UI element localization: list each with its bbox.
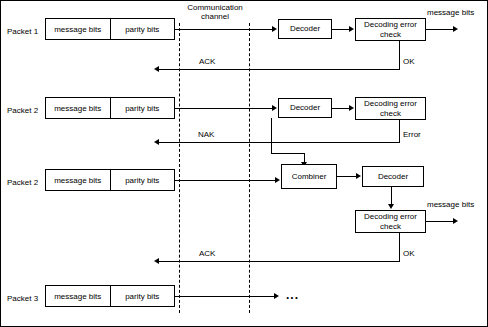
line-packet1-to-decoder1	[175, 29, 273, 30]
message-bits-output-2-label: message bits	[427, 200, 474, 209]
packet-1-label: Packet 1	[7, 27, 38, 36]
line-errcheck3-down	[399, 233, 400, 261]
line-decoder2-to-errcheck2	[332, 108, 350, 109]
arrow-decoder1-to-errcheck1	[349, 26, 354, 32]
packet-3-label: Packet 3	[7, 294, 38, 303]
errcheck3-line1: Decoding error	[364, 212, 417, 221]
line-errcheck2-down	[399, 120, 400, 142]
arrow-errcheck1-output	[453, 26, 458, 32]
ok-1-label: OK	[403, 57, 415, 66]
arrow-nak	[154, 139, 159, 145]
line-errcheck1-down	[399, 41, 400, 69]
line-errcheck1-to-output1	[426, 29, 454, 30]
errcheck2-line1: Decoding error	[364, 99, 417, 108]
packet-1-message-bits: message bits	[46, 19, 111, 39]
line-packet3-out	[175, 296, 275, 297]
line-packet2r-to-combiner	[175, 180, 276, 181]
decoder-2-box: Decoder	[278, 98, 332, 118]
packet-2-box: message bits parity bits	[45, 97, 175, 119]
line-packet2-to-decoder2	[175, 108, 273, 109]
packet-1-parity-bits: parity bits	[111, 19, 175, 39]
channel-boundary-right	[249, 23, 250, 313]
decoding-error-check-2-box: Decoding error check	[355, 97, 426, 120]
ack-2-label: ACK	[199, 249, 215, 258]
packet-1-box: message bits parity bits	[45, 18, 175, 40]
ellipsis-label: ...	[286, 288, 299, 302]
decoder-3-box: Decoder	[362, 166, 424, 187]
figure-canvas: Communication channel Packet 1 message b…	[0, 0, 488, 327]
line-errcheck3-to-output2	[426, 221, 454, 222]
packet-2-retransmit-label: Packet 2	[7, 178, 38, 187]
arrow-packet3-out	[274, 293, 279, 299]
errcheck3-line2: check	[380, 222, 401, 231]
ok-2-label: OK	[403, 249, 415, 258]
decoder-1-box: Decoder	[278, 19, 332, 39]
arrow-packet2r-to-combiner	[275, 177, 280, 183]
arrow-errcheck3-output	[453, 218, 458, 224]
arrow-packet1-to-decoder1	[272, 26, 277, 32]
line-nak-horizontal	[159, 142, 400, 143]
packet-3-message-bits: message bits	[46, 286, 111, 306]
packet-3-parity-bits: parity bits	[111, 286, 175, 306]
arrow-decoder3-to-errcheck3	[388, 204, 394, 209]
decoding-error-check-1-box: Decoding error check	[355, 18, 426, 41]
arrow-packet2-to-decoder2	[272, 105, 277, 111]
packet-3-box: message bits parity bits	[45, 285, 175, 307]
channel-label-line2: channel	[169, 12, 261, 21]
nak-label: NAK	[198, 130, 214, 139]
packet-2-parity-bits: parity bits	[111, 98, 175, 118]
arrow-decoder2-to-errcheck2	[349, 105, 354, 111]
packet-2-retransmit-parity-bits: parity bits	[111, 170, 175, 190]
line-decoder2-buffer-right	[271, 153, 305, 154]
arrow-ack1	[154, 66, 159, 72]
errcheck1-line2: check	[380, 30, 401, 39]
error-label: Error	[403, 130, 421, 139]
packet-2-retransmit-box: message bits parity bits	[45, 169, 175, 191]
arrow-combiner-to-decoder3	[356, 173, 361, 179]
channel-label-line1: Communication	[169, 3, 261, 12]
errcheck2-line2: check	[380, 109, 401, 118]
message-bits-output-1-label: message bits	[427, 8, 474, 17]
packet-2-message-bits: message bits	[46, 98, 111, 118]
decoding-error-check-3-box: Decoding error check	[355, 210, 426, 233]
channel-boundary-left	[179, 23, 180, 313]
packet-2-retransmit-message-bits: message bits	[46, 170, 111, 190]
line-decoder2-buffer-down	[271, 118, 272, 153]
line-ack1-horizontal	[159, 69, 400, 70]
ack-1-label: ACK	[199, 57, 215, 66]
packet-2-label: Packet 2	[7, 106, 38, 115]
line-combiner-to-decoder3	[337, 176, 357, 177]
errcheck1-line1: Decoding error	[364, 20, 417, 29]
combiner-box: Combiner	[281, 164, 337, 189]
line-decoder1-to-errcheck1	[332, 29, 350, 30]
line-ack2-horizontal	[159, 261, 400, 262]
arrow-ack2	[154, 258, 159, 264]
